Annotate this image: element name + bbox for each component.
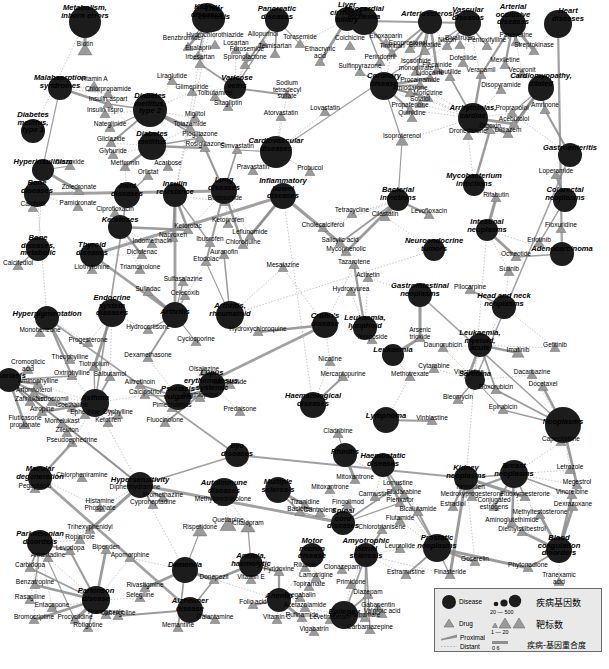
disease-node[interactable] (300, 392, 326, 418)
drug-node[interactable] (103, 418, 113, 426)
drug-node[interactable] (83, 338, 93, 346)
disease-node[interactable] (138, 132, 166, 160)
disease-node[interactable] (454, 466, 478, 490)
disease-node[interactable] (476, 219, 498, 241)
drug-node[interactable] (191, 337, 201, 345)
disease-node[interactable] (48, 76, 72, 100)
drug-node[interactable] (135, 265, 145, 273)
disease-node[interactable] (199, 6, 225, 32)
drug-node[interactable] (25, 595, 35, 603)
disease-node[interactable] (354, 543, 378, 567)
disease-node[interactable] (82, 586, 110, 614)
disease-node[interactable] (127, 472, 153, 498)
disease-node[interactable] (500, 460, 528, 488)
disease-node[interactable] (114, 182, 140, 208)
disease-node[interactable] (211, 178, 237, 204)
drug-node[interactable] (241, 520, 255, 532)
drug-node[interactable] (231, 45, 241, 53)
drug-node[interactable] (337, 565, 347, 573)
drug-node[interactable] (407, 113, 417, 121)
drug-node[interactable] (193, 51, 203, 59)
disease-node[interactable] (418, 10, 442, 34)
drug-node[interactable] (350, 475, 360, 483)
drug-node[interactable] (345, 41, 355, 49)
drug-node[interactable] (163, 162, 173, 170)
drug-node[interactable] (248, 166, 258, 174)
drug-node[interactable] (489, 502, 499, 510)
drug-node[interactable] (78, 43, 92, 55)
disease-node[interactable] (239, 553, 263, 577)
drug-node[interactable] (65, 161, 75, 169)
drug-node[interactable] (143, 353, 153, 361)
drug-node[interactable] (455, 40, 465, 48)
disease-node[interactable] (28, 466, 52, 490)
disease-node[interactable] (163, 183, 187, 207)
drug-node[interactable] (304, 582, 314, 590)
disease-node[interactable] (370, 72, 398, 100)
drug-node[interactable] (295, 593, 305, 601)
disease-node[interactable] (468, 333, 492, 357)
disease-node[interactable] (69, 6, 101, 38)
drug-node[interactable] (135, 593, 145, 601)
disease-node[interactable] (463, 174, 485, 196)
disease-node[interactable] (165, 384, 191, 410)
drug-node[interactable] (65, 355, 75, 363)
drug-node[interactable] (511, 37, 521, 45)
disease-node[interactable] (353, 316, 377, 340)
drug-node[interactable] (278, 263, 288, 271)
disease-node[interactable] (270, 183, 296, 209)
drug-node[interactable] (395, 544, 405, 552)
drug-node[interactable] (535, 510, 545, 518)
disease-node[interactable] (528, 75, 554, 101)
disease-node[interactable] (24, 181, 50, 207)
drug-node[interactable] (491, 385, 501, 393)
drug-node[interactable] (105, 123, 115, 131)
drug-node[interactable] (135, 380, 145, 388)
drug-node[interactable] (338, 372, 348, 380)
disease-node[interactable] (371, 453, 395, 477)
drug-node[interactable] (101, 545, 111, 553)
disease-node[interactable] (199, 372, 225, 398)
disease-node[interactable] (80, 243, 104, 267)
drug-node[interactable] (201, 257, 211, 265)
disease-node[interactable] (408, 283, 432, 307)
drug-node[interactable] (458, 58, 468, 66)
drug-node[interactable] (504, 267, 514, 275)
drug-node[interactable] (320, 107, 330, 115)
disease-node[interactable] (550, 242, 574, 266)
drug-node[interactable] (210, 92, 220, 100)
disease-node[interactable] (492, 295, 516, 319)
disease-node[interactable] (265, 477, 291, 503)
disease-node[interactable] (331, 511, 355, 535)
drug-node[interactable] (178, 277, 188, 285)
drug-node[interactable] (309, 627, 319, 635)
drug-node[interactable] (75, 535, 85, 543)
disease-node[interactable] (500, 11, 526, 37)
disease-node[interactable] (210, 478, 238, 506)
drug-node[interactable] (405, 372, 415, 380)
drug-node[interactable] (396, 135, 408, 145)
drug-node[interactable] (465, 285, 475, 293)
disease-node[interactable] (260, 136, 292, 168)
drug-node[interactable] (395, 498, 405, 506)
drug-node[interactable] (432, 65, 442, 73)
disease-node[interactable] (312, 312, 338, 338)
drug-node[interactable] (89, 362, 99, 370)
drug-node[interactable] (67, 371, 77, 379)
disease-node[interactable] (108, 215, 132, 239)
drug-node[interactable] (143, 171, 153, 179)
drug-node[interactable] (113, 410, 123, 418)
drug-node[interactable] (556, 224, 566, 232)
drug-node[interactable] (365, 625, 375, 633)
drug-node[interactable] (147, 239, 157, 247)
disease-node[interactable] (465, 370, 485, 390)
drug-node[interactable] (527, 370, 537, 378)
drug-node[interactable] (88, 81, 100, 91)
drug-node[interactable] (415, 333, 425, 341)
disease-node[interactable] (133, 93, 167, 127)
disease-node[interactable] (373, 407, 399, 433)
drug-node[interactable] (370, 492, 380, 500)
drug-node[interactable] (355, 67, 365, 75)
drug-node[interactable] (517, 69, 527, 77)
drug-node[interactable] (105, 372, 115, 380)
